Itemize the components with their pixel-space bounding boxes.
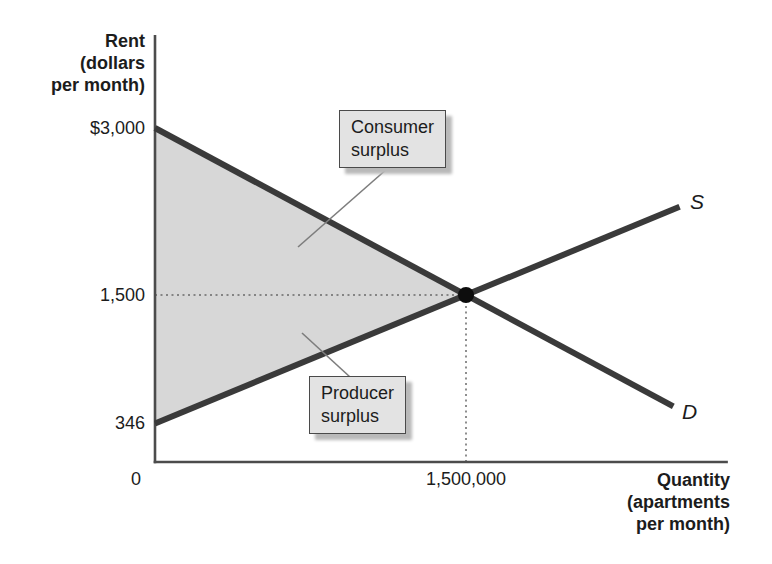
producer-surplus-callout: Producer surplus [309, 376, 406, 434]
y-tick-label-3000: $3,000 [45, 117, 145, 139]
y-tick-label-1500: 1,500 [45, 284, 145, 306]
equilibrium-point [458, 287, 474, 303]
demand-curve-label: D [682, 400, 697, 424]
x-tick-label-0: 0 [131, 468, 141, 490]
supply-curve-label: S [690, 190, 704, 214]
x-tick-label-1500000: 1,500,000 [426, 468, 506, 490]
consumer-surplus-callout: Consumer surplus [339, 110, 446, 168]
y-axis-title: Rent (dollars per month) [25, 30, 145, 96]
x-axis-title: Quantity (apartments per month) [558, 469, 730, 535]
surplus-diagram: Rent (dollars per month) Quantity (apart… [0, 0, 772, 564]
y-tick-label-346: 346 [45, 412, 145, 434]
